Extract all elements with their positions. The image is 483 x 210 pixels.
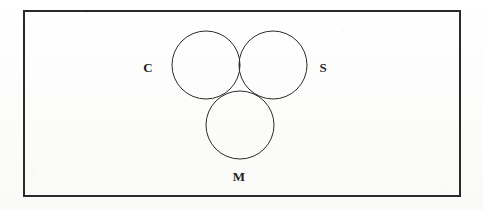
venn-diagram-page: C S M <box>0 0 483 210</box>
set-label-s: S <box>319 60 326 75</box>
circle-set-m[interactable] <box>206 91 274 159</box>
circle-set-s[interactable] <box>239 31 307 99</box>
set-label-c: C <box>143 60 152 75</box>
venn-diagram-figure: C S M <box>0 0 483 210</box>
set-label-m: M <box>233 169 245 184</box>
circle-set-c[interactable] <box>172 31 240 99</box>
